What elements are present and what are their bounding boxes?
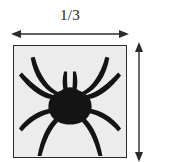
figure-canvas: 1/3 [0, 0, 171, 162]
height-dimension-arrow [131, 41, 147, 162]
width-dimension-arrow [10, 26, 130, 42]
figure-box [13, 45, 127, 158]
width-dimension-label: 1/3 [13, 6, 127, 24]
spider-icon [14, 46, 126, 157]
